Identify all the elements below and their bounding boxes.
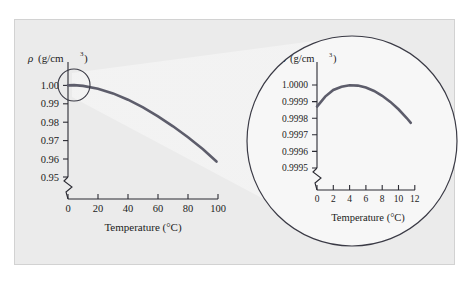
overview-y-tick-label: 1.00 [41,80,59,91]
magnified-x-tick-label: 8 [380,194,385,204]
figure-density-of-water: 1.00 0.99 0.98 0.97 0.96 0.95 0 20 40 60… [0,0,475,287]
overview-y-axis-label-symbol: ρ [27,52,33,64]
overview-x-ticks [68,194,218,199]
overview-y-axis-label: ρ (g/cm 3 ) [27,50,88,65]
magnified-x-tick-label: 10 [394,194,404,204]
magnified-x-axis-label: Temperature (°C) [331,212,405,224]
magnified-x-tick-label: 12 [410,194,420,204]
overview-y-tick-label: 0.98 [41,117,59,128]
magnified-y-axis-label-exponent: 3 [329,51,332,58]
overview-y-tick-label: 0.96 [41,154,59,165]
chart-magnified: 1.0000 0.9999 0.9998 0.9997 0.9996 0.999… [247,36,457,246]
overview-x-tick-label: 0 [65,203,70,214]
magnified-y-axis-label-units: (g/cm [290,53,315,65]
overview-y-tick-label: 0.99 [41,98,59,109]
overview-x-axis-label: Temperature (°C) [104,221,182,234]
magnified-y-tick-label: 0.9995 [282,163,308,173]
overview-y-axis-label-units: (g/cm [38,52,64,65]
magnified-x-tick-label: 4 [347,194,352,204]
overview-y-tick-label: 0.97 [41,135,59,146]
magnified-y-tick-label: 0.9996 [282,147,308,157]
magnified-y-axis-label-close: ) [333,53,337,65]
magnified-y-tick-label: 0.9999 [282,97,308,107]
overview-x-tick-label: 80 [183,203,194,214]
magnified-x-tick-label: 0 [315,194,320,204]
magnified-y-tick-label: 0.9998 [282,114,308,124]
magnified-y-tick-label: 1.0000 [282,80,308,90]
magnified-x-tick-label: 2 [331,194,336,204]
magnified-y-tick-label: 0.9997 [282,130,308,140]
overview-x-tick-label: 100 [210,203,226,214]
overview-x-tick-label: 40 [123,203,134,214]
overview-y-tick-label: 0.95 [41,172,59,183]
magnified-x-tick-label: 6 [364,194,369,204]
figure-canvas: 1.00 0.99 0.98 0.97 0.96 0.95 0 20 40 60… [0,0,475,287]
overview-x-tick-label: 60 [153,203,164,214]
overview-x-tick-label: 20 [93,203,104,214]
overview-y-axis-label-close: ) [84,52,88,65]
